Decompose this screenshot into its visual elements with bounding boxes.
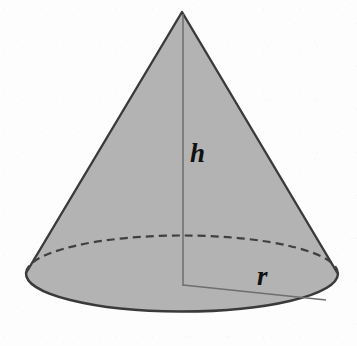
cone-diagram: h r	[0, 0, 357, 346]
height-label: h	[190, 140, 205, 167]
cone-illustration	[0, 0, 357, 346]
radius-label: r	[257, 263, 268, 290]
cone-body-shape	[26, 12, 338, 312]
